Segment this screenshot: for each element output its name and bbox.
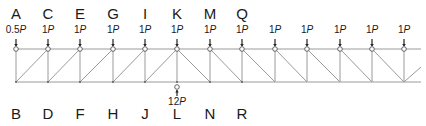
hinge-node [240, 47, 245, 52]
arrowhead-icon [338, 44, 342, 47]
hinge-node [14, 47, 19, 52]
truss-diagram: A0.5PC1PE1PG1PI1PK1PM1PQ1P1P1P1P1P1PBDFH… [0, 0, 426, 126]
hinge-node [143, 47, 148, 52]
diagonal-member [372, 49, 404, 82]
diagonal-member [80, 49, 113, 82]
node-label-g: G [107, 6, 119, 21]
diagonal-member [210, 49, 242, 82]
bottom-node [144, 81, 146, 83]
node-label-h: H [108, 106, 119, 121]
bottom-node [47, 81, 49, 83]
reaction-value: 12P [168, 97, 186, 107]
diagonal-member [177, 49, 210, 82]
hinge-node [46, 47, 51, 52]
load-value: 1P [42, 25, 54, 35]
load-value: 1P [236, 25, 248, 35]
load-value: 1P [171, 25, 183, 35]
diagonal-member [16, 49, 48, 82]
support-node [175, 85, 180, 90]
hinge-node [402, 47, 407, 52]
hinge-node [338, 47, 343, 52]
diagonal-member [242, 49, 275, 82]
node-label-c: C [43, 6, 54, 21]
diagonal-member [275, 49, 307, 82]
hinge-node [78, 47, 83, 52]
node-label-l: L [173, 106, 181, 121]
node-label-f: F [75, 106, 84, 121]
arrowhead-icon [78, 44, 82, 47]
diagonal-member [404, 67, 421, 82]
arrowhead-icon [175, 90, 179, 93]
arrowhead-icon [46, 44, 50, 47]
node-label-r: R [237, 106, 248, 121]
node-label-d: D [43, 106, 54, 121]
load-value: 1P [107, 25, 119, 35]
diagonal-member [48, 49, 80, 82]
node-label-a: A [11, 6, 21, 21]
arrowhead-icon [111, 44, 115, 47]
node-label-m: M [204, 6, 217, 21]
hinge-node [273, 47, 278, 52]
hinge-node [208, 47, 213, 52]
arrowhead-icon [402, 44, 406, 47]
arrowhead-icon [370, 44, 374, 47]
hinge-node [370, 47, 375, 52]
bottom-node [209, 81, 211, 83]
arrowhead-icon [14, 44, 18, 47]
arrowhead-icon [273, 44, 277, 47]
diagonal-member [307, 49, 340, 82]
diagonal-member [145, 49, 177, 82]
node-label-j: J [141, 106, 149, 121]
load-value: 1P [398, 25, 410, 35]
load-value: 1P [74, 25, 86, 35]
bottom-node [241, 81, 243, 83]
node-label-b: B [11, 106, 21, 121]
node-label-n: N [205, 106, 216, 121]
diagonal-member [113, 49, 145, 82]
arrowhead-icon [208, 44, 212, 47]
bottom-node [176, 81, 178, 83]
arrowhead-icon [175, 44, 179, 47]
hinge-node [305, 47, 310, 52]
load-value: 1P [301, 25, 313, 35]
node-label-q: Q [236, 6, 248, 21]
arrowhead-icon [240, 44, 244, 47]
load-value: 1P [269, 25, 281, 35]
hinge-node [111, 47, 116, 52]
load-value: 1P [334, 25, 346, 35]
node-label-e: E [75, 6, 85, 21]
load-value: 1P [366, 25, 378, 35]
hinge-node [175, 47, 180, 52]
diagonal-member [340, 49, 372, 82]
load-value: 1P [204, 25, 216, 35]
bottom-node [15, 81, 17, 83]
node-label-k: K [172, 6, 182, 21]
bottom-node [79, 81, 81, 83]
node-label-i: I [143, 6, 147, 21]
bottom-node [112, 81, 114, 83]
load-value: 1P [139, 25, 151, 35]
load-value: 0.5P [6, 25, 27, 35]
arrowhead-icon [143, 44, 147, 47]
arrowhead-icon [305, 44, 309, 47]
